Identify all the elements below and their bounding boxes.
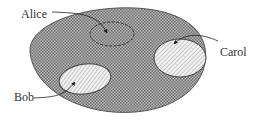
bob-label: Bob bbox=[14, 90, 34, 104]
carol-region bbox=[154, 39, 206, 77]
set-diagram: Alice Carol Bob bbox=[0, 0, 263, 123]
alice-label: Alice bbox=[21, 7, 47, 21]
carol-label: Carol bbox=[220, 45, 247, 59]
alice-region bbox=[90, 22, 134, 46]
